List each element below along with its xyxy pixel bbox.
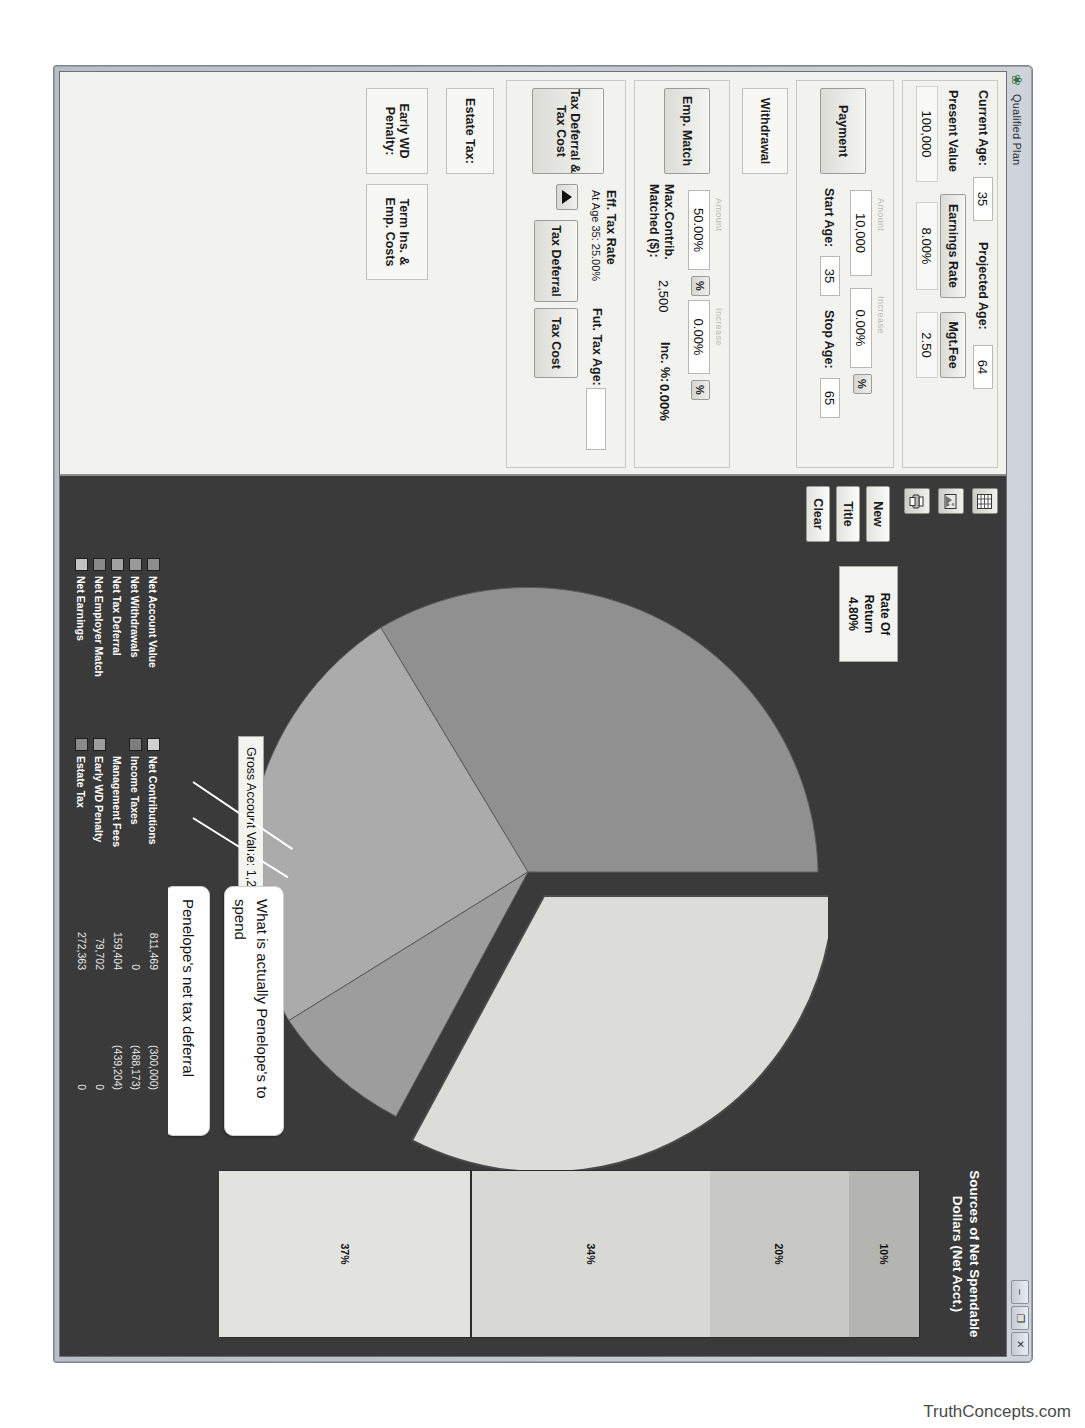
legend-value: 0: [130, 880, 142, 970]
legend-item: Net Account Value: [147, 558, 160, 668]
legend-item: Net Tax Deferral: [111, 558, 124, 656]
mgt-fee-field[interactable]: 2.50: [916, 312, 938, 378]
current-age-label: Current Age:: [976, 90, 990, 166]
legend-item: Net Withdrawals: [129, 558, 142, 658]
legend-value: 811,469: [148, 880, 160, 970]
stacked-bar-title: Sources of Net Spendable Dollars (Net Ac…: [948, 1170, 982, 1338]
legend-value: (488,173): [130, 1000, 142, 1090]
legend-item: Early WD Penalty: [93, 738, 106, 842]
triangle-up-icon[interactable]: [556, 184, 578, 210]
plan-leaf-icon: ❀: [1009, 74, 1024, 89]
earnings-rate-field[interactable]: 8.00%: [916, 202, 938, 290]
title-bar: ❀ Qualified Plan – ❐ ✕: [1006, 70, 1028, 1358]
window-chrome: ❀ Qualified Plan – ❐ ✕ Current Age: 35 P…: [53, 65, 1033, 1363]
legend-swatch: [129, 738, 142, 751]
minimize-icon[interactable]: –: [1011, 1280, 1029, 1304]
start-age-label: Start Age:: [822, 188, 836, 247]
legend-item: Estate Tax: [75, 738, 88, 808]
legend-label: Income Taxes: [129, 756, 141, 825]
eff-tax-rate-label: Eff. Tax Rate: [604, 190, 618, 265]
legend-swatch: [129, 558, 142, 571]
title-button[interactable]: Title: [836, 486, 860, 542]
inc-percent-value: 0.00%: [657, 384, 672, 421]
brand-watermark: TruthConcepts.com: [923, 1402, 1071, 1422]
legend-swatch: [111, 558, 124, 571]
emp-match-amount-field[interactable]: 50.00%: [688, 190, 710, 270]
close-icon[interactable]: ✕: [1011, 1332, 1029, 1356]
eff-tax-rate-sublabel: At Age 35: 25.00%: [590, 190, 602, 281]
application-window: ❀ Qualified Plan – ❐ ✕ Current Age: 35 P…: [53, 65, 1033, 1363]
projected-age-label: Projected Age:: [976, 242, 990, 330]
fut-tax-age-field[interactable]: [586, 388, 606, 450]
payment-button[interactable]: Payment: [820, 88, 866, 174]
bar-segment: 20%: [709, 1171, 849, 1337]
estate-tax-button[interactable]: Estate Tax:: [446, 88, 494, 174]
legend-item: Income Taxes: [129, 738, 142, 825]
present-value-label: Present Value: [946, 90, 960, 172]
picture-icon[interactable]: [938, 488, 964, 514]
chart-stage: Rate Of Return 4.80%: [60, 550, 1006, 1356]
payment-amount-ghost-label: Amount: [876, 198, 886, 231]
inc-percent-label: Inc. %:: [658, 342, 672, 382]
legend-label: Net Tax Deferral: [111, 576, 123, 656]
emp-match-amount-percent-toggle[interactable]: %: [691, 276, 710, 296]
legend-value: 159,404: [112, 880, 124, 970]
payment-increase-field[interactable]: 0.00%: [850, 288, 872, 368]
legend-label: Net Earnings: [75, 576, 87, 641]
legend-swatch: [93, 558, 106, 571]
projected-age-field: 64: [973, 345, 993, 389]
printer-icon[interactable]: [904, 488, 930, 514]
term-ins-emp-costs-button[interactable]: Term Ins. & Emp. Costs: [366, 184, 428, 280]
bar-segment-label: 20%: [773, 1243, 785, 1264]
legend-value: (300,000): [148, 1000, 160, 1090]
legend-label: Net Withdrawals: [129, 576, 141, 658]
legend-swatch: [75, 558, 88, 571]
legend-value: 272,363: [76, 880, 88, 970]
new-button[interactable]: New: [866, 486, 890, 542]
earnings-rate-button[interactable]: Earnings Rate: [940, 194, 966, 298]
early-wd-penalty-button[interactable]: Early WD Penalty:: [366, 88, 428, 174]
rate-of-return-label: Rate Of Return: [860, 575, 892, 653]
clear-button[interactable]: Clear: [806, 486, 830, 542]
emp-match-button[interactable]: Emp. Match: [664, 88, 710, 174]
sources-stacked-bar: 10% 20% 34% 37%: [220, 1170, 920, 1338]
start-age-field[interactable]: 35: [820, 256, 840, 296]
tax-deferral-tax-cost-button[interactable]: Tax Deferral & Tax Cost: [532, 88, 604, 174]
tax-cost-button[interactable]: Tax Cost: [534, 308, 578, 378]
rate-of-return-box: Rate Of Return 4.80%: [839, 566, 898, 662]
emp-match-increase-field[interactable]: 0.00%: [688, 300, 710, 374]
fut-tax-age-label: Fut. Tax Age:: [590, 308, 604, 386]
toolbar-column: New Title Clear: [60, 478, 1006, 550]
legend-value: 79,702: [94, 880, 106, 970]
rotated-screen-wrapper: ❀ Qualified Plan – ❐ ✕ Current Age: 35 P…: [0, 0, 1085, 1428]
qualified-plan-input-panel: Current Age: 35 Projected Age: 64 Presen…: [60, 72, 1006, 476]
net-spendable-pie-chart: [228, 572, 828, 1192]
max-contrib-field[interactable]: 2,500: [654, 280, 674, 340]
bar-segment: 34%: [472, 1171, 709, 1337]
payment-increase-percent-toggle[interactable]: %: [853, 374, 872, 394]
bar-segment: 37%: [219, 1171, 472, 1337]
legend-label: Net Employer Match: [93, 576, 105, 677]
bar-segment-label: 37%: [338, 1243, 350, 1264]
legend-value: 0: [76, 1000, 88, 1090]
payment-amount-field[interactable]: 10,000: [850, 190, 872, 276]
emp-match-increase-percent-toggle[interactable]: %: [691, 380, 710, 400]
mgt-fee-button[interactable]: Mgt.Fee: [940, 312, 966, 378]
legend-swatch: [147, 738, 160, 751]
present-value-field[interactable]: 100,000: [916, 86, 938, 182]
callout-spendable: What is actually Penelope's to spend: [224, 886, 284, 1136]
withdrawal-button[interactable]: Withdrawal: [742, 88, 788, 174]
maximize-icon[interactable]: ❐: [1011, 1306, 1029, 1330]
legend-label: Early WD Penalty: [93, 756, 105, 842]
legend-item: Net Contributions: [147, 738, 160, 845]
legend-item: Net Earnings: [75, 558, 88, 641]
tax-deferral-button[interactable]: Tax Deferral: [534, 220, 578, 302]
current-age-field[interactable]: 35: [973, 177, 993, 221]
legend-swatch: [93, 738, 106, 751]
legend-swatch: [147, 558, 160, 571]
window-title: Qualified Plan: [1011, 94, 1023, 165]
legend-swatch: [75, 738, 88, 751]
legend-label: Estate Tax: [75, 756, 87, 808]
stop-age-field[interactable]: 65: [820, 378, 840, 418]
spreadsheet-icon[interactable]: [972, 488, 998, 514]
